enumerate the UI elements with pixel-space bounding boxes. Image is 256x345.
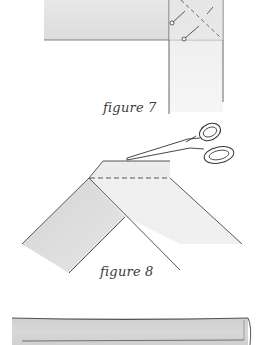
figure-9-illustration (12, 318, 251, 345)
figure-7-caption: figure 7 (103, 100, 157, 115)
horizontal-fabric-strip (44, 0, 169, 40)
figure-8-caption: figure 8 (100, 264, 154, 279)
figure-7-illustration (44, 0, 223, 114)
instruction-diagram: figure 7 figure 8 (0, 0, 256, 345)
scissors-icon (127, 120, 235, 166)
figure-8-illustration (22, 120, 242, 273)
